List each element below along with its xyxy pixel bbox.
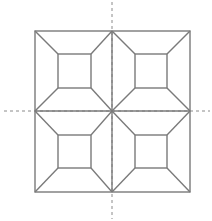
inner-square xyxy=(135,54,167,88)
diagonal-top-left xyxy=(112,111,135,135)
diagonal-bottom-right xyxy=(91,168,112,192)
symmetry-tiling-diagram xyxy=(0,0,212,221)
quadrant-bottom-right xyxy=(112,111,190,192)
quadrant-bottom-left xyxy=(35,111,112,192)
diagonal-bottom-left xyxy=(35,168,58,192)
inner-square xyxy=(58,135,91,168)
diagonal-top-right xyxy=(167,31,190,54)
quadrant-top-left xyxy=(35,31,112,111)
diagonal-top-right xyxy=(91,31,112,54)
diagonal-bottom-right xyxy=(167,88,190,111)
inner-square xyxy=(58,54,91,88)
diagonal-bottom-left xyxy=(35,88,58,111)
diagonal-bottom-left xyxy=(112,168,135,192)
diagonal-top-right xyxy=(167,111,190,135)
diagonal-bottom-right xyxy=(167,168,190,192)
diagonal-top-left xyxy=(35,111,58,135)
diagonal-top-right xyxy=(91,111,112,135)
diagonal-top-left xyxy=(112,31,135,54)
diagonal-bottom-left xyxy=(112,88,135,111)
inner-square xyxy=(135,135,167,168)
diagram-canvas xyxy=(0,0,212,221)
diagonal-bottom-right xyxy=(91,88,112,111)
diagonal-top-left xyxy=(35,31,58,54)
quadrant-top-right xyxy=(112,31,190,111)
